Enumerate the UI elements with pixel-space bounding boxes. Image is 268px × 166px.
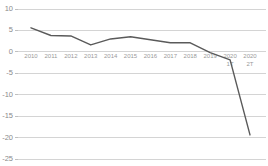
x-axis-tick-label: 2018 — [184, 53, 198, 59]
x-axis-tick-label: 2012 — [64, 53, 78, 59]
x-axis-tick-label: 2017 — [164, 53, 178, 59]
y-axis-tick-label: -25 — [2, 154, 13, 163]
x-axis-tick-label: 2016 — [144, 53, 158, 59]
x-axis-labels: 2010201120122013201420152016201720182019… — [24, 53, 257, 67]
series-line — [31, 28, 250, 135]
y-axis-labels: 1050-5-10-15-20-25 — [2, 4, 13, 163]
y-axis-tick-label: -5 — [6, 68, 13, 77]
axis-tickmarks — [15, 9, 18, 159]
x-axis-tick-label: 2015 — [124, 53, 138, 59]
x-axis-tick-label: 2013 — [84, 53, 98, 59]
y-axis-tick-label: 5 — [9, 25, 13, 34]
x-axis-tick-label: 2010 — [24, 53, 38, 59]
y-axis-tick-label: -20 — [2, 133, 13, 142]
data-series — [31, 28, 250, 135]
line-chart: 1050-5-10-15-20-25 201020112012201320142… — [0, 0, 268, 166]
gridlines — [18, 9, 266, 159]
chart-canvas: 1050-5-10-15-20-25 201020112012201320142… — [0, 0, 268, 166]
y-axis-tick-label: -10 — [2, 90, 13, 99]
x-axis-tick-label: 20202T — [243, 53, 257, 67]
x-axis-tick-label: 2011 — [44, 53, 58, 59]
y-axis-tick-label: 10 — [5, 4, 13, 13]
y-axis-tick-label: 0 — [9, 47, 13, 56]
x-axis-tick-label: 2014 — [104, 53, 118, 59]
y-axis-tick-label: -15 — [2, 111, 13, 120]
